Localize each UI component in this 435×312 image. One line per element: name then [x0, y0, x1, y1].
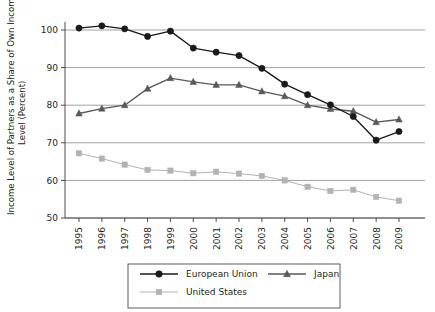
- x-tick-label: 2003: [257, 227, 267, 250]
- legend-label: Japan: [313, 269, 339, 279]
- x-tick-label: 2005: [303, 227, 313, 250]
- data-point-square: [156, 289, 162, 295]
- y-tick-label: 80: [47, 100, 59, 110]
- x-tick-label: 2006: [326, 227, 336, 250]
- legend-label: United States: [186, 287, 247, 297]
- data-point-triangle: [121, 102, 128, 108]
- y-tick-label: 50: [47, 213, 59, 223]
- x-tick-label: 2007: [349, 227, 359, 250]
- y-tick-label: 70: [47, 138, 59, 148]
- x-tick-label: 1998: [143, 227, 153, 250]
- y-tick-label: 90: [47, 63, 59, 73]
- chart-container: Income Level of Partners as a Share of O…: [0, 0, 435, 312]
- y-tick-label: 100: [41, 25, 58, 35]
- data-point-circle: [190, 45, 196, 51]
- data-point-triangle: [167, 75, 174, 81]
- legend-label: European Union: [186, 269, 258, 279]
- data-point-square: [351, 187, 356, 192]
- data-point-circle: [213, 49, 219, 55]
- data-point-square: [99, 156, 104, 161]
- x-tick-label: 2009: [394, 227, 404, 250]
- x-tick-label: 2001: [212, 227, 222, 250]
- data-point-circle: [236, 52, 242, 58]
- data-point-circle: [327, 102, 333, 108]
- data-point-square: [191, 171, 196, 176]
- legend: European UnionJapanUnited States: [128, 264, 340, 308]
- data-point-square: [373, 194, 378, 199]
- x-tick-label: 2008: [372, 227, 382, 250]
- data-point-circle: [396, 128, 402, 134]
- data-point-circle: [259, 65, 265, 71]
- x-tick-label: 1996: [97, 227, 107, 250]
- x-axis: 1995199619971998199920002001200220032004…: [74, 218, 404, 250]
- data-point-circle: [156, 271, 163, 278]
- data-point-circle: [373, 137, 379, 143]
- series-united-states: [76, 151, 401, 204]
- data-point-circle: [122, 26, 128, 32]
- x-tick-label: 1997: [120, 227, 130, 250]
- data-point-square: [122, 162, 127, 167]
- x-tick-label: 2000: [189, 227, 199, 250]
- data-point-square: [259, 173, 264, 178]
- data-point-circle: [144, 33, 150, 39]
- series-line: [79, 153, 399, 200]
- data-point-circle: [282, 81, 288, 87]
- x-tick-label: 2002: [234, 227, 244, 250]
- line-chart: Income Level of Partners as a Share of O…: [0, 0, 435, 312]
- data-point-triangle: [396, 116, 403, 122]
- data-point-square: [76, 151, 81, 156]
- x-tick-label: 1995: [74, 227, 84, 250]
- y-axis-title-line1: Income Level of Partners as a Share of O…: [6, 0, 16, 215]
- x-tick-label: 2004: [280, 227, 290, 250]
- data-point-circle: [76, 25, 82, 31]
- data-point-square: [145, 167, 150, 172]
- data-point-circle: [167, 28, 173, 34]
- y-axis-title-line2: Level (Percent): [17, 81, 27, 145]
- y-tick-label: 60: [47, 176, 59, 186]
- x-tick-label: 1999: [166, 227, 176, 250]
- series-layer: [76, 23, 403, 204]
- data-point-square: [396, 198, 401, 203]
- data-point-square: [168, 168, 173, 173]
- data-point-square: [213, 169, 218, 174]
- data-point-circle: [350, 113, 356, 119]
- data-point-square: [282, 178, 287, 183]
- data-point-square: [236, 171, 241, 176]
- data-point-circle: [99, 23, 105, 29]
- data-point-circle: [304, 92, 310, 98]
- y-axis-title: Income Level of Partners as a Share of O…: [6, 0, 27, 215]
- data-point-square: [328, 188, 333, 193]
- data-point-square: [305, 184, 310, 189]
